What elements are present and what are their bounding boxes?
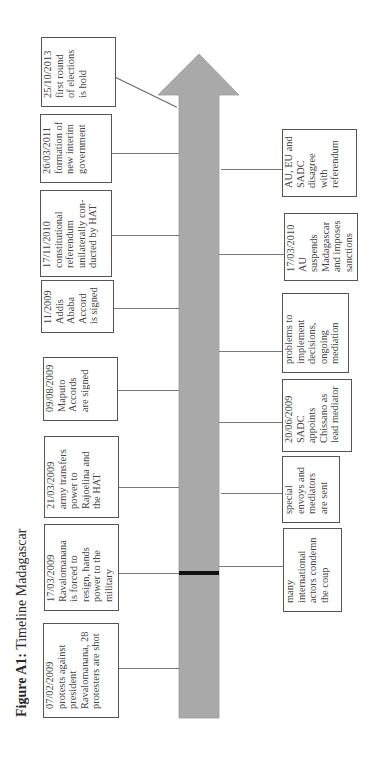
event-box-protests: 07/02/2009 protests against president Ra… (43, 623, 119, 718)
event-box-army-transfer: 21/03/2009 army transfers power to Rajoe… (44, 436, 119, 518)
connector (221, 493, 282, 494)
reaction-box-problems: problems to implement decisions, ongoing… (282, 293, 349, 373)
event-date: 17/11/2010 (41, 221, 52, 268)
reaction-box-disagree: AU, EU and SADC disagree with referendum (282, 129, 357, 197)
connector (119, 573, 179, 574)
event-text: army transfers power to Rajoelina and th… (57, 449, 103, 509)
reaction-text: problems to implement decisions, ongoing… (283, 315, 340, 364)
connector (119, 487, 179, 488)
event-box-maputo: 09/08/2009 Maputo Accords are signed (43, 357, 118, 421)
reaction-text: special envoys and mediators are sent (283, 467, 329, 514)
event-box-interim-government: 26/03/2011 formation of new interim gove… (40, 114, 112, 183)
connector (221, 169, 282, 170)
event-box-referendum: 17/11/2010 constitutional referendum uni… (40, 190, 112, 277)
event-text: formation of new interim government (53, 122, 87, 174)
event-date: 26/03/2011 (41, 127, 52, 174)
connector (219, 351, 282, 352)
connector (112, 153, 179, 154)
event-box-resign: 17/03/2009 Ravalomanana is forced to res… (44, 524, 119, 611)
event-text: first round of elections is hold (54, 50, 88, 98)
event-date: 09/08/2009 (44, 365, 55, 412)
reaction-text: many international actors condemn the co… (284, 538, 330, 604)
connector (118, 390, 179, 391)
connector (114, 308, 179, 309)
reaction-date: 17/03/2010 (285, 225, 296, 272)
connector (219, 422, 282, 423)
reaction-box-au-sanctions: 17/03/2010 AU suspends Madagascar and im… (284, 213, 358, 281)
event-text: Ravalomanana is forced to resign, hands … (57, 540, 114, 602)
connector (219, 254, 284, 255)
event-box-addis-ababa: 11/2009 Addis Ababa Accord is signed (41, 280, 114, 333)
reaction-text: AU, EU and SADC disagree with referendum (283, 136, 340, 188)
reaction-box-envoys: special envoys and mediators are sent (282, 456, 340, 523)
event-date: 07/02/2009 (44, 662, 55, 709)
reaction-text: AU suspends Madagascar and imposes sanct… (297, 220, 354, 272)
reaction-date: 20/06/2009 (283, 396, 294, 443)
event-date: 17/03/2009 (45, 555, 56, 602)
event-text: constitutional referendum unilaterally c… (53, 200, 99, 268)
event-date: 11/2009 (42, 290, 53, 324)
event-text: Maputo Accords are signed (56, 370, 90, 412)
event-text: Addis Ababa Accord is signed (54, 287, 100, 324)
connector (219, 566, 283, 567)
reaction-box-sadc-mediator: 20/06/2009 SADC appoints Chissano as lea… (282, 379, 352, 452)
reaction-box-condemn: many international actors condemn the co… (283, 528, 342, 612)
connector (112, 235, 179, 236)
event-text: protests against president Ravalomanana,… (56, 632, 102, 709)
coup-marker (179, 571, 219, 575)
event-date: 21/03/2009 (45, 462, 56, 509)
event-box-elections: 25/10/2013 first round of elections is h… (41, 37, 116, 107)
connector (119, 668, 179, 669)
event-date: 25/10/2013 (42, 51, 53, 98)
reaction-text: SADC appoints Chissano as lead mediator (295, 386, 341, 443)
